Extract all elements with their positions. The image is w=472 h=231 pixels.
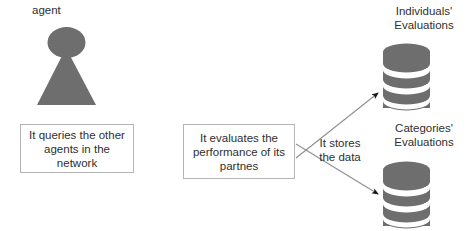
categories-database-icon <box>383 162 430 229</box>
diagram-canvas: agent It queries the other agents in the… <box>0 0 472 231</box>
individuals-database-icon <box>383 44 430 111</box>
process-box-evaluate-label: It evaluates the performance of its part… <box>188 131 290 173</box>
individuals-db-label: Individuals' Evaluations <box>376 5 472 32</box>
agent-figure-icon <box>37 27 96 105</box>
process-box-evaluate[interactable]: It evaluates the performance of its part… <box>183 124 295 179</box>
categories-db-label: Categories' Evaluations <box>376 122 472 149</box>
process-box-query[interactable]: It queries the other agents in the netwo… <box>20 124 134 173</box>
edge-label-stores-data: It stores the data <box>310 137 370 164</box>
process-box-query-label: It queries the other agents in the netwo… <box>25 128 129 170</box>
agent-label: agent <box>32 4 102 18</box>
diagram-vector-layer <box>0 0 472 231</box>
